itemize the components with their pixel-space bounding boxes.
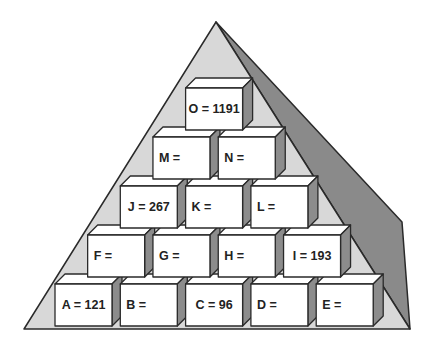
- box-side-face: [341, 225, 351, 277]
- box-label-b: B =: [126, 299, 146, 312]
- box-label-o: O = 1191: [189, 103, 240, 116]
- box-label-l: L =: [257, 201, 275, 214]
- box-label-j: J = 267: [128, 201, 170, 214]
- box-side-face: [275, 127, 285, 179]
- box-label-f: F =: [94, 250, 112, 263]
- box-side-face: [308, 176, 318, 228]
- box-label-e: E =: [322, 299, 341, 312]
- box-label-n: N =: [224, 152, 244, 165]
- box-top-face: [186, 78, 253, 88]
- box-side-face: [243, 78, 253, 130]
- box-label-d: D =: [257, 299, 277, 312]
- box-side-face: [373, 274, 383, 326]
- pyramid-diagram: A = 121B =C = 96D =E =F =G =H =I = 193J …: [0, 0, 442, 350]
- box-label-i: I = 193: [293, 250, 332, 263]
- box-label-k: K =: [192, 201, 212, 214]
- box-label-a: A = 121: [62, 299, 106, 312]
- box-label-m: M =: [159, 152, 180, 165]
- box-label-h: H =: [224, 250, 244, 263]
- box-label-c: C = 96: [196, 299, 233, 312]
- box-label-g: G =: [159, 250, 180, 263]
